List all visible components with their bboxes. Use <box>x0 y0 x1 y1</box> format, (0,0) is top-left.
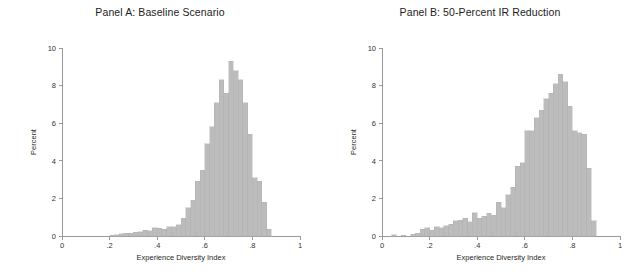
x-tick-label-0: 0 <box>380 241 384 250</box>
y-axis-title: Percent <box>349 128 358 155</box>
histogram-bar <box>171 227 176 236</box>
x-tick-label-0: 0 <box>60 241 64 250</box>
y-tick-label-6: 6 <box>52 119 56 128</box>
histogram-bar <box>515 166 520 236</box>
histogram-bar <box>449 224 454 236</box>
histogram-bar <box>577 133 582 236</box>
y-tick-label-4: 4 <box>372 157 376 166</box>
histogram-bar <box>549 93 554 236</box>
bar-series <box>392 74 597 236</box>
panel-b-svg: 0246810Percent0.2.4.6.81Experience Diver… <box>320 28 640 272</box>
histogram-bar <box>525 131 530 236</box>
panel-a: Panel A: Baseline Scenario 0246810Percen… <box>0 0 320 272</box>
histogram-bar <box>186 208 191 236</box>
x-tick-label-.8: .8 <box>249 241 255 250</box>
x-tick-label-.2: .2 <box>426 241 432 250</box>
histogram-bar <box>553 84 558 236</box>
histogram-bar <box>491 215 496 236</box>
histogram-bar <box>544 99 549 236</box>
histogram-bar <box>458 220 463 236</box>
y-tick-label-2: 2 <box>52 194 56 203</box>
histogram-bar <box>267 229 272 236</box>
histogram-bar <box>434 227 439 236</box>
histogram-bar <box>477 218 482 236</box>
x-tick-label-.6: .6 <box>202 241 208 250</box>
x-tick-label-.4: .4 <box>474 241 480 250</box>
histogram-bar <box>444 226 449 236</box>
histogram-bar <box>119 234 124 236</box>
histogram-bar <box>530 131 535 236</box>
bar-series <box>110 61 272 236</box>
panel-a-svg: 0246810Percent0.2.4.6.81Experience Diver… <box>0 28 320 272</box>
histogram-bar <box>110 235 115 236</box>
panel-b-plot: 0246810Percent0.2.4.6.81Experience Diver… <box>320 28 640 272</box>
histogram-bar <box>219 80 224 236</box>
y-tick-label-10: 10 <box>368 44 376 53</box>
histogram-bar <box>392 235 397 236</box>
histogram-bar <box>501 208 506 236</box>
histogram-bar <box>214 103 219 236</box>
histogram-bar <box>506 195 511 236</box>
histogram-bar <box>439 228 444 236</box>
histogram-bar <box>511 187 516 236</box>
y-axis-title: Percent <box>29 128 38 155</box>
histogram-bar <box>243 103 248 236</box>
histogram-bar <box>200 170 205 236</box>
panel-b-title: Panel B: 50-Percent IR Reduction <box>320 6 640 18</box>
histogram-bar <box>143 230 148 236</box>
histogram-bar <box>558 74 563 236</box>
y-tick-label-8: 8 <box>52 81 56 90</box>
histogram-bar <box>124 233 129 236</box>
y-tick-label-6: 6 <box>372 119 376 128</box>
histogram-bar <box>224 93 229 236</box>
x-tick-label-.8: .8 <box>569 241 575 250</box>
histogram-bar <box>138 232 143 236</box>
panel-b: Panel B: 50-Percent IR Reduction 0246810… <box>320 0 640 272</box>
y-tick-label-0: 0 <box>372 232 376 241</box>
histogram-bar <box>257 181 262 236</box>
histogram-bar <box>534 118 539 236</box>
histogram-bar <box>411 234 416 236</box>
histogram-bar <box>453 221 458 236</box>
histogram-bar <box>233 71 238 236</box>
y-tick-label-2: 2 <box>372 194 376 203</box>
histogram-bar <box>248 134 253 236</box>
histogram-bar <box>133 232 138 236</box>
histogram-bar <box>167 227 172 236</box>
histogram-bar <box>238 80 243 236</box>
y-tick-label-8: 8 <box>372 81 376 90</box>
x-axis-title: Experience Diversity Index <box>137 253 226 262</box>
histogram-bar <box>162 229 167 236</box>
histogram-bar <box>472 213 477 237</box>
histogram-bar <box>262 202 267 236</box>
histogram-bar <box>463 218 468 236</box>
histogram-bar <box>148 231 153 236</box>
panel-a-plot: 0246810Percent0.2.4.6.81Experience Diver… <box>0 28 320 272</box>
histogram-bar <box>210 127 215 236</box>
histogram-bar <box>587 168 592 236</box>
x-tick-label-1: 1 <box>618 241 622 250</box>
histogram-bar <box>482 216 487 236</box>
histogram-bar <box>487 213 492 236</box>
x-tick-label-.6: .6 <box>522 241 528 250</box>
histogram-bar <box>114 235 119 237</box>
y-tick-label-0: 0 <box>52 232 56 241</box>
x-tick-label-.2: .2 <box>106 241 112 250</box>
histogram-bar <box>468 222 473 236</box>
histogram-bar <box>568 106 573 236</box>
histogram-bar <box>563 82 568 236</box>
histogram-bar <box>205 144 210 236</box>
histogram-bar <box>152 228 157 236</box>
panel-a-title: Panel A: Baseline Scenario <box>0 6 320 18</box>
histogram-bar <box>252 178 257 236</box>
y-tick-label-10: 10 <box>48 44 56 53</box>
x-axis-title: Experience Diversity Index <box>457 253 546 262</box>
histogram-bar <box>191 200 196 236</box>
histogram-bar <box>415 233 420 236</box>
histogram-bar <box>539 110 544 236</box>
histogram-bar <box>496 202 501 236</box>
histogram-bar <box>129 233 134 236</box>
histogram-bar <box>420 229 425 236</box>
histogram-bar <box>176 225 181 236</box>
histogram-bar <box>425 228 430 236</box>
